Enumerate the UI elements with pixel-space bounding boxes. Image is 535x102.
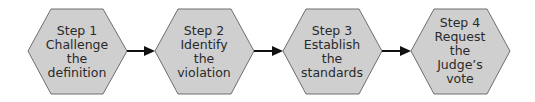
step-4-number: Step 4 [412, 16, 508, 30]
step-3-line-2: Establish [284, 38, 380, 52]
step-1-line-4: definition [29, 66, 125, 80]
step-3-line-3: the [284, 52, 380, 66]
step-1-line-3: the [29, 52, 125, 66]
step-2-label: Step 2 Identify the violation [156, 24, 252, 80]
arrow-3-to-4 [382, 46, 411, 56]
step-4-line-4: Judge’s [412, 58, 508, 72]
step-4-line-3: the [412, 44, 508, 58]
step-4-line-5: vote [412, 72, 508, 86]
step-1-label: Step 1 Challenge the definition [29, 24, 125, 80]
arrow-1-to-2 [127, 46, 155, 56]
step-3-line-4: standards [284, 66, 380, 80]
step-1-number: Step 1 [29, 24, 125, 38]
step-4-label: Step 4 Request the Judge’s vote [412, 16, 508, 86]
step-2-line-2: Identify [156, 38, 252, 52]
step-3-label: Step 3 Establish the standards [284, 24, 380, 80]
step-4-line-2: Request [412, 30, 508, 44]
step-2-number: Step 2 [156, 24, 252, 38]
step-3-number: Step 3 [284, 24, 380, 38]
step-2-line-4: violation [156, 66, 252, 80]
arrow-2-to-3 [254, 46, 283, 56]
step-2-line-3: the [156, 52, 252, 66]
step-1-line-2: Challenge [29, 38, 125, 52]
